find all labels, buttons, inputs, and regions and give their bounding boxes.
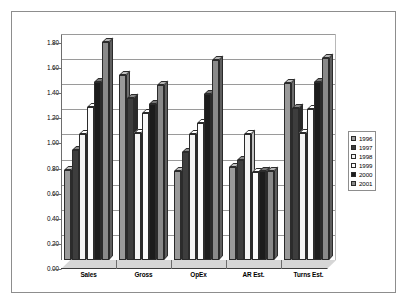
legend-swatch-icon: [351, 181, 356, 186]
bar[interactable]: [229, 167, 236, 260]
bar-side: [329, 53, 333, 260]
bar-face: [292, 108, 299, 260]
x-axis-label: Turns Est.: [281, 271, 336, 278]
bar[interactable]: [72, 150, 79, 260]
bar[interactable]: [134, 133, 141, 260]
bar-face: [267, 171, 274, 260]
legend-swatch-icon: [351, 145, 356, 150]
bar-face: [252, 172, 259, 260]
bar-group: [116, 34, 171, 260]
bar[interactable]: [267, 171, 274, 260]
legend-item[interactable]: 2001: [351, 179, 372, 188]
x-axis-separator: [226, 260, 227, 269]
bar[interactable]: [64, 170, 71, 260]
bar-face: [259, 171, 266, 260]
bar-face: [157, 85, 164, 260]
legend-item-label: 1996: [359, 134, 372, 143]
bar[interactable]: [322, 58, 329, 260]
legend-swatch-icon: [351, 136, 356, 141]
bar[interactable]: [182, 152, 189, 260]
chart-frame: 0.000.200.400.600.801.001.201.401.601.80…: [11, 11, 396, 293]
bar[interactable]: [314, 82, 321, 260]
bar[interactable]: [252, 172, 259, 260]
bar[interactable]: [94, 82, 101, 260]
bar-face: [299, 133, 306, 260]
bar-face: [284, 83, 291, 260]
bar-face: [64, 170, 71, 260]
legend-swatch-icon: [351, 163, 356, 168]
legend-item[interactable]: 1997: [351, 143, 372, 152]
x-axis-separator: [116, 260, 117, 269]
chart-floor-front-edge: [61, 268, 327, 269]
bar[interactable]: [259, 171, 266, 260]
x-axis-separator: [281, 260, 282, 269]
bar[interactable]: [119, 75, 126, 260]
bar[interactable]: [197, 123, 204, 260]
bar-face: [102, 42, 109, 260]
bar-face: [87, 107, 94, 260]
bar[interactable]: [87, 107, 94, 260]
legend-item-label: 2001: [359, 179, 372, 188]
bar[interactable]: [237, 160, 244, 260]
bar-face: [314, 82, 321, 260]
bar[interactable]: [174, 171, 181, 260]
x-axis-label: Gross: [116, 271, 171, 278]
bar[interactable]: [127, 98, 134, 260]
bar[interactable]: [204, 94, 211, 260]
legend-item-label: 1997: [359, 143, 372, 152]
bar-face: [189, 134, 196, 260]
bar[interactable]: [102, 42, 109, 260]
bar-face: [142, 113, 149, 260]
x-axis-label: Sales: [61, 271, 116, 278]
legend-item-label: 2000: [359, 170, 372, 179]
bar[interactable]: [299, 133, 306, 260]
bar[interactable]: [79, 134, 86, 260]
bar[interactable]: [284, 83, 291, 260]
legend-item[interactable]: 2000: [351, 170, 372, 179]
bar[interactable]: [142, 113, 149, 260]
bar[interactable]: [244, 134, 251, 260]
chart-canvas: 0.000.200.400.600.801.001.201.401.601.80…: [12, 12, 397, 294]
bar[interactable]: [189, 134, 196, 260]
bar[interactable]: [307, 109, 314, 260]
bar-face: [174, 171, 181, 260]
bar-face: [237, 160, 244, 260]
bar-face: [322, 58, 329, 260]
bar-series-container: [61, 34, 336, 260]
bar-group: [281, 34, 336, 260]
legend-item-label: 1999: [359, 161, 372, 170]
bar-face: [149, 104, 156, 260]
bar[interactable]: [292, 108, 299, 260]
bar[interactable]: [149, 104, 156, 260]
bar-face: [307, 109, 314, 260]
legend-swatch-icon: [351, 154, 356, 159]
bar-face: [72, 150, 79, 260]
legend-item[interactable]: 1996: [351, 134, 372, 143]
legend-swatch-icon: [351, 172, 356, 177]
legend-item[interactable]: 1999: [351, 161, 372, 170]
bar[interactable]: [157, 85, 164, 260]
x-axis-label: AR Est.: [226, 271, 281, 278]
bar-side: [219, 56, 223, 260]
bar-face: [212, 60, 219, 260]
bar-face: [197, 123, 204, 260]
x-axis-labels: SalesGrossOpExAR Est.Turns Est.: [61, 271, 336, 285]
bar[interactable]: [212, 60, 219, 260]
x-axis-separator: [171, 260, 172, 269]
chart-legend: 199619971998199920002001: [348, 131, 376, 191]
bar-side: [164, 81, 168, 260]
legend-item-label: 1998: [359, 152, 372, 161]
bar-face: [79, 134, 86, 260]
bar-group: [61, 34, 116, 260]
bar-side: [274, 166, 278, 260]
bar-face: [119, 75, 126, 260]
chart-floor: [61, 260, 336, 269]
bar-face: [204, 94, 211, 260]
legend-item[interactable]: 1998: [351, 152, 372, 161]
bar-group: [226, 34, 281, 260]
bar-face: [244, 134, 251, 260]
bar-side: [109, 37, 113, 260]
bar-face: [229, 167, 236, 260]
bar-group: [171, 34, 226, 260]
bar-face: [134, 133, 141, 260]
